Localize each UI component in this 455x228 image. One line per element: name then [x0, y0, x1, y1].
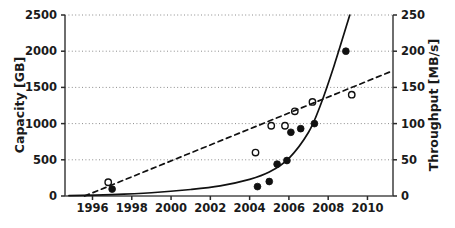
chart-canvas: 05001000150020002500 050100150200250 199…	[0, 0, 455, 228]
y-tick-label-left: 1500	[25, 80, 57, 94]
y-tick-label-left: 2500	[25, 8, 57, 22]
y-tick-label-right: 100	[401, 117, 425, 131]
x-tick-label: 2010	[351, 201, 383, 215]
y-tick-label-right: 50	[401, 153, 417, 167]
y-tick-label-left: 2000	[25, 44, 57, 58]
y-tick-label-right: 200	[401, 44, 425, 58]
x-tick-label: 2002	[194, 201, 226, 215]
y-tick-label-left: 500	[33, 153, 57, 167]
x-tick-label: 2008	[312, 201, 344, 215]
y-tick-label-right: 150	[401, 80, 425, 94]
capacity-data-point	[254, 183, 261, 190]
x-tick-label: 1996	[76, 201, 108, 215]
figure: 05001000150020002500 050100150200250 199…	[0, 0, 455, 228]
throughput-data-point	[268, 123, 274, 129]
capacity-data-point	[266, 178, 273, 185]
y-tick-label-right: 250	[401, 8, 425, 22]
capacity-data-point	[297, 125, 304, 132]
y-tick-label-left: 1000	[25, 117, 57, 131]
x-tick-label: 1998	[116, 201, 148, 215]
throughput-data-point	[282, 123, 288, 129]
capacity-data-point	[109, 186, 116, 193]
capacity-data-point	[287, 129, 294, 136]
y-tick-label-right: 0	[401, 189, 409, 203]
throughput-data-point	[349, 91, 355, 97]
figure-background	[0, 0, 455, 228]
y-axis-label-left: Capacity [GB]	[12, 57, 27, 153]
x-tick-label: 2006	[273, 201, 305, 215]
y-tick-label-left: 0	[49, 189, 57, 203]
y-axis-label-right: Throughput [MB/s]	[426, 39, 441, 172]
capacity-data-point	[342, 48, 349, 55]
x-tick-label: 2004	[234, 201, 266, 215]
x-tick-label: 2000	[155, 201, 187, 215]
throughput-data-point	[105, 179, 111, 185]
throughput-data-point	[252, 149, 258, 155]
